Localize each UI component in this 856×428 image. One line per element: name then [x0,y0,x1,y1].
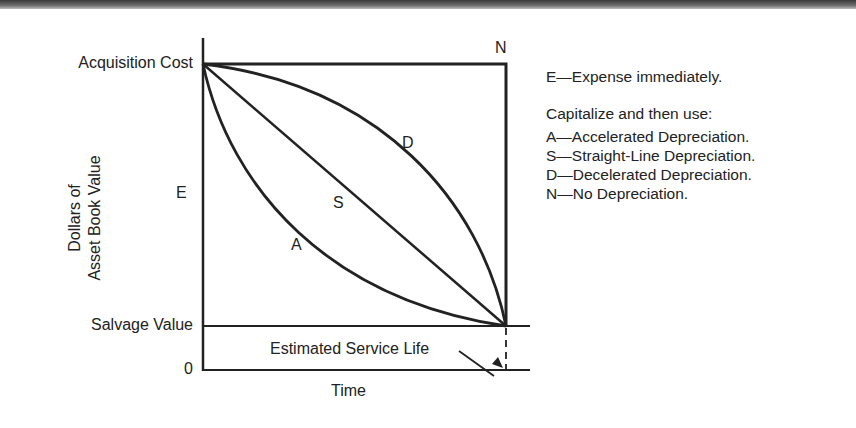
arrow-line [455,351,498,376]
arrow-icon [492,357,503,368]
curve-label-n: N [495,39,507,57]
service-life-label: Estimated Service Life [270,340,429,358]
y-axis-label-line2: Asset Book Value [85,103,105,333]
curve-s [203,64,506,326]
y-axis-label-line1: Dollars of [65,103,85,333]
legend-item-s: S—Straight-Line Depreciation. [546,146,755,165]
curve-label-a: A [291,236,302,254]
salvage-value-label: Salvage Value [91,316,193,334]
legend: E—Expense immediately. Capitalize and th… [546,66,755,203]
time-label: Time [331,382,366,400]
curve-label-s: S [333,194,344,212]
y-axis-label: Dollars of Asset Book Value [65,103,105,333]
legend-expense: E—Expense immediately. [546,66,755,87]
curve-label-e: E [176,184,187,202]
legend-intro: Capitalize and then use: [546,103,755,124]
legend-item-d: D—Decelerated Depreciation. [546,165,755,184]
curve-label-d: D [402,134,414,152]
legend-item-a: A—Accelerated Depreciation. [546,127,755,146]
acquisition-cost-label: Acquisition Cost [78,54,193,72]
zero-label: 0 [184,360,193,378]
legend-item-n: N—No Depreciation. [546,184,755,203]
